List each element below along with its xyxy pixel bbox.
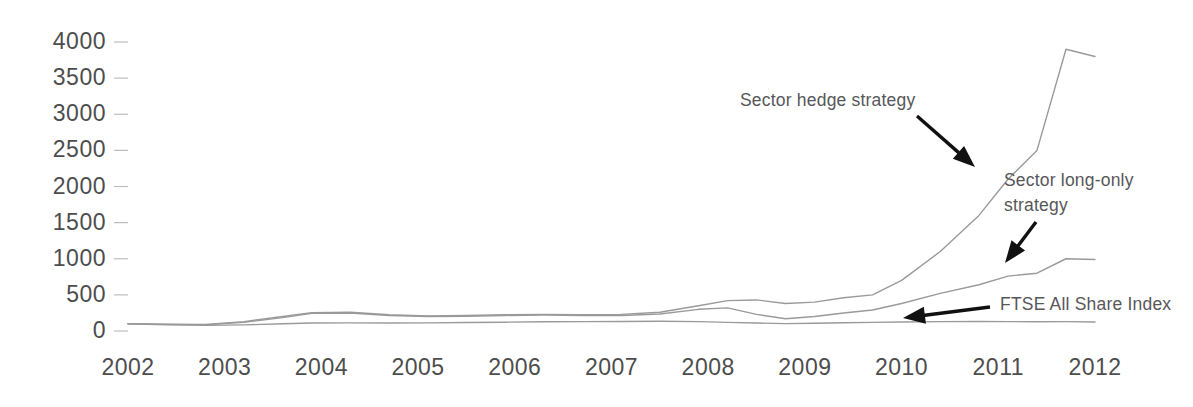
line-chart: 05001000150020002500300035004000 2002200…: [0, 0, 1193, 407]
annotation-label-sector-long-only-strategy: Sector long-onlystrategy: [1004, 170, 1134, 215]
chart-annotations: Sector hedge strategySector long-onlystr…: [740, 90, 1171, 324]
annotation-label-ftse-all-share-index: FTSE All Share Index: [1000, 294, 1171, 314]
x-tick-label: 2004: [295, 354, 348, 380]
y-tick-label: 500: [66, 281, 106, 307]
annotation-arrow-shaft-sector-long-only-strategy: [1016, 222, 1036, 249]
annotation-arrow-shaft-sector-hedge-strategy: [917, 116, 961, 155]
series-line-sector-long-only-strategy: [128, 259, 1095, 325]
series-line-sector-hedge-strategy: [128, 49, 1095, 324]
y-tick-label: 2500: [53, 136, 106, 162]
y-tick-label: 1500: [53, 209, 106, 235]
y-tick-label: 1000: [53, 245, 106, 271]
series-line-ftse-all-share-index: [128, 321, 1095, 325]
x-tick-label: 2003: [198, 354, 251, 380]
annotation-arrow-head-ftse-all-share-index: [903, 307, 926, 324]
x-tick-label: 2008: [682, 354, 735, 380]
x-tick-label: 2006: [488, 354, 541, 380]
annotation-sector-hedge-strategy: Sector hedge strategy: [740, 90, 975, 167]
x-tick-label: 2011: [973, 354, 1024, 380]
y-axis-labels: 05001000150020002500300035004000: [53, 28, 106, 343]
y-tick-label: 0: [93, 317, 106, 343]
y-tick-label: 2000: [53, 173, 106, 199]
annotation-sector-long-only-strategy: Sector long-onlystrategy: [1004, 170, 1134, 263]
x-tick-label: 2009: [778, 354, 831, 380]
annotation-arrow-head-sector-long-only-strategy: [1005, 240, 1025, 263]
x-axis-labels: 2002200320042005200620072008200920102011…: [101, 354, 1121, 380]
y-tick-label: 3500: [53, 64, 106, 90]
x-tick-label: 2010: [875, 354, 928, 380]
x-tick-label: 2007: [585, 354, 638, 380]
x-tick-label: 2012: [1068, 354, 1121, 380]
data-series-lines: [128, 49, 1095, 325]
y-axis-ticks: [114, 42, 128, 331]
chart-canvas: 05001000150020002500300035004000 2002200…: [0, 0, 1193, 407]
annotation-label-sector-hedge-strategy: Sector hedge strategy: [740, 90, 915, 110]
annotation-ftse-all-share-index: FTSE All Share Index: [903, 294, 1171, 324]
y-tick-label: 3000: [53, 100, 106, 126]
x-tick-label: 2005: [392, 354, 445, 380]
x-tick-label: 2002: [101, 354, 154, 380]
annotation-arrow-shaft-ftse-all-share-index: [921, 307, 990, 316]
y-tick-label: 4000: [53, 28, 106, 54]
